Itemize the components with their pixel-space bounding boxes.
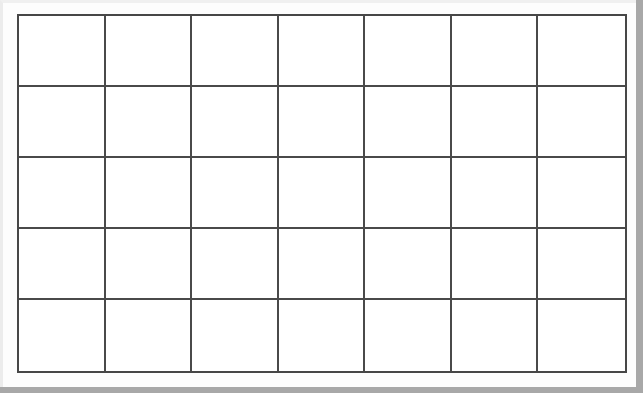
grid-cell-r4-c5: [365, 229, 452, 300]
grid-cell-r2-c2: [106, 87, 193, 158]
grid-cell-r3-c4: [279, 158, 366, 229]
grid-cell-r4-c3: [192, 229, 279, 300]
grid-cell-r2-c4: [279, 87, 366, 158]
grid-cell-r5-c2: [106, 300, 193, 371]
grid-cell-r1-c6: [452, 16, 539, 87]
grid-cell-r4-c6: [452, 229, 539, 300]
grid-cell-r4-c2: [106, 229, 193, 300]
grid-cell-r1-c1: [19, 16, 106, 87]
grid-cell-r4-c1: [19, 229, 106, 300]
grid-cell-r2-c1: [19, 87, 106, 158]
grid-cell-r2-c5: [365, 87, 452, 158]
grid-cell-r3-c2: [106, 158, 193, 229]
grid-cell-r1-c3: [192, 16, 279, 87]
grid-cell-r4-c4: [279, 229, 366, 300]
grid-cell-r3-c5: [365, 158, 452, 229]
grid-cell-r2-c3: [192, 87, 279, 158]
grid-cell-r5-c7: [538, 300, 625, 371]
grid-cell-r1-c5: [365, 16, 452, 87]
grid-cell-r5-c3: [192, 300, 279, 371]
grid-cell-r1-c2: [106, 16, 193, 87]
grid-cell-r4-c7: [538, 229, 625, 300]
grid-cell-r3-c3: [192, 158, 279, 229]
grid-cell-r5-c1: [19, 300, 106, 371]
grid-cell-r5-c4: [279, 300, 366, 371]
empty-grid-table: [17, 14, 627, 373]
grid-cell-r2-c6: [452, 87, 539, 158]
grid-cell-r2-c7: [538, 87, 625, 158]
grid-cell-r5-c5: [365, 300, 452, 371]
grid-cell-r3-c6: [452, 158, 539, 229]
grid-cell-r5-c6: [452, 300, 539, 371]
grid-cell-r3-c1: [19, 158, 106, 229]
page-shadow-frame: [0, 0, 643, 393]
grid-cell-r1-c4: [279, 16, 366, 87]
grid-cell-r3-c7: [538, 158, 625, 229]
grid-cell-r1-c7: [538, 16, 625, 87]
